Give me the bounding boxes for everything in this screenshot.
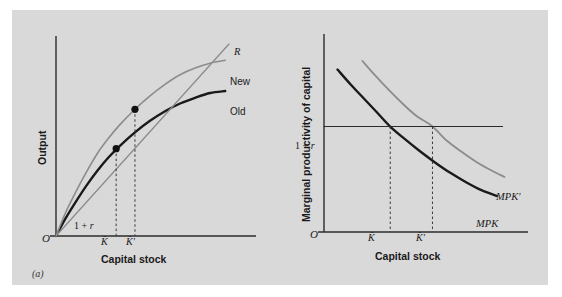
series-curve-old [56, 91, 225, 236]
panel-b-mpk-label: MPK [476, 218, 498, 229]
data-point-old-optimum [113, 145, 120, 152]
figure-container: Output Capital stock O 1 + r K̄ K̄′ R Ne… [0, 0, 562, 297]
panel-b-rate-prefix: 1 + [295, 140, 311, 151]
series-curve-mpk [337, 70, 496, 196]
panel-b-mpk-prime-label: MPK′ [496, 191, 520, 202]
panel-a-slope-var: r [90, 220, 94, 231]
panel-a-ray-label: R [234, 46, 240, 57]
panel-b-origin-label: O [310, 228, 318, 240]
panel-a-tick-k-prime: K̄′ [126, 236, 135, 247]
panel-a-x-axis-title: Capital stock [101, 253, 166, 265]
panel-b-x-axis-title: Capital stock [375, 250, 440, 262]
panel-a-slope-label: 1 + r [74, 220, 94, 231]
data-point-new-optimum [131, 106, 138, 113]
panel-a-old-curve-label: Old [230, 106, 246, 117]
panel-a-origin-label: O [42, 232, 50, 244]
panel-a-y-axis-title: Output [36, 131, 48, 165]
panel-a-slope-prefix: 1 + [74, 220, 90, 231]
panel-b-plot [280, 10, 548, 285]
panel-b-rate-var: r [311, 140, 315, 151]
panel-a-new-curve-label: New [230, 76, 250, 87]
panel-a-caption: (a) [32, 268, 44, 279]
panel-b: Marginal productivity of capital Capital… [280, 10, 548, 285]
panel-b-tick-k: K̄ [368, 232, 375, 243]
series-curve-new [56, 60, 225, 236]
panel-b-rate-line-label: 1 + r [295, 140, 315, 151]
panel-a: Output Capital stock O 1 + r K̄ K̄′ R Ne… [12, 10, 280, 285]
series-curve-r [56, 44, 229, 236]
panel-b-tick-k-prime: K̄′ [416, 232, 425, 243]
panel-a-tick-k: K̄ [101, 236, 108, 247]
